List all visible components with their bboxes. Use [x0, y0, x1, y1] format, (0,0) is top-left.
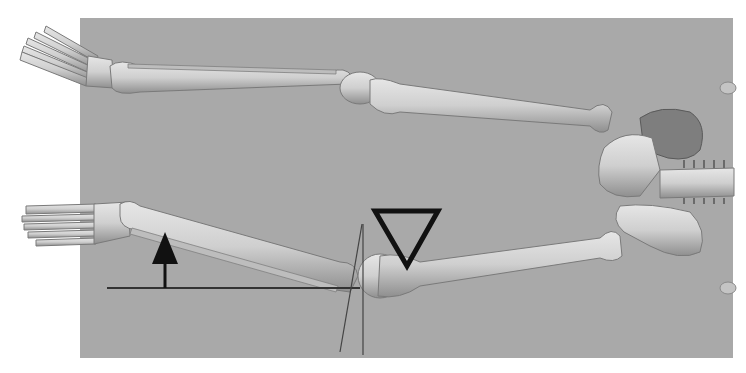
upper-leg: [20, 26, 612, 132]
lower-foot: [22, 202, 130, 246]
upper-femur: [370, 79, 612, 133]
upper-foot: [20, 26, 114, 88]
hand-bone-bottom: [720, 282, 736, 294]
sacrum: [599, 135, 660, 197]
lower-tibia: [120, 201, 358, 292]
lumbar-spine: [660, 168, 734, 198]
hand-bone-top: [720, 82, 736, 94]
lower-leg: [22, 201, 622, 298]
pelvis-ilium-lower: [616, 205, 703, 256]
skeleton-illustration: [0, 0, 746, 373]
pelvis: [599, 82, 736, 294]
lower-femur: [378, 231, 622, 296]
